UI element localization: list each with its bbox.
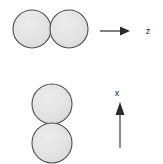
sphere-bottom-lower [32, 123, 72, 163]
axis-z-arrow [100, 27, 130, 36]
sphere-top-right [50, 10, 88, 48]
vertical-dimer-group [32, 84, 72, 163]
axis-x-arrowhead [116, 102, 125, 115]
molecular-orientation-diagram: z x [0, 0, 163, 164]
sphere-top-left [13, 10, 51, 48]
diagram-canvas: z x [0, 0, 163, 164]
axis-z-label: z [146, 26, 151, 36]
axis-x-arrow [116, 102, 125, 148]
horizontal-dimer-group [13, 10, 88, 48]
axis-x-label: x [115, 88, 120, 98]
sphere-bottom-upper [32, 84, 72, 124]
axis-z-arrowhead [120, 27, 130, 36]
